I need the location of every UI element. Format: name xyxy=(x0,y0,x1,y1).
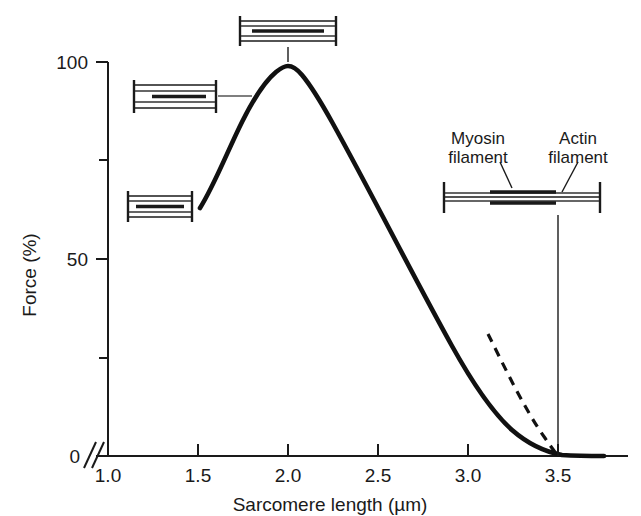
y-tick-label-100: 100 xyxy=(56,52,88,73)
myosin-label-line2: filament xyxy=(448,148,508,167)
myosin-label-line1: Myosin xyxy=(451,129,505,148)
sarcomere-diagram-near-optimal xyxy=(134,80,252,113)
x-axis-title: Sarcomere length (µm) xyxy=(233,494,428,515)
sarcomere-diagram-optimal xyxy=(240,16,336,62)
sarcomere-diagram-stretched xyxy=(444,162,600,456)
force-curve-solid xyxy=(200,66,604,456)
x-tick-label-3-5: 3.5 xyxy=(545,465,571,486)
y-axis-title: Force (%) xyxy=(19,233,40,316)
y-tick-label-50: 50 xyxy=(67,249,88,270)
x-tick-label-1-0: 1.0 xyxy=(95,465,121,486)
actin-label-line2: filament xyxy=(548,148,608,167)
x-tick-label-2-5: 2.5 xyxy=(365,465,391,486)
sarcomere-diagram-short xyxy=(128,191,192,222)
chart-canvas: 100 50 0 1.0 1.5 2.0 2.5 3.0 3.5 Force (… xyxy=(0,0,641,516)
y-axis xyxy=(96,62,108,456)
actin-label-line1: Actin xyxy=(559,129,597,148)
x-tick-label-3-0: 3.0 xyxy=(455,465,481,486)
x-tick-label-2-0: 2.0 xyxy=(275,465,301,486)
y-tick-label-0: 0 xyxy=(69,446,80,467)
x-tick-label-1-5: 1.5 xyxy=(185,465,211,486)
length-tension-figure: 100 50 0 1.0 1.5 2.0 2.5 3.0 3.5 Force (… xyxy=(0,0,641,516)
